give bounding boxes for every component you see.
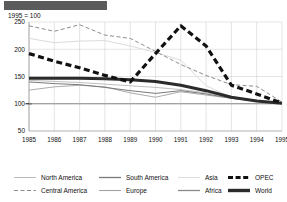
y-axis-tick-label: 200 — [14, 46, 25, 53]
legend-item-north-america[interactable]: North America — [14, 171, 82, 184]
x-axis-tick-label: 1985 — [22, 136, 37, 143]
legend-item-europe[interactable]: Europe — [99, 184, 147, 197]
x-axis-tick-label: 1992 — [199, 136, 214, 143]
legend-label: Asia — [205, 172, 218, 183]
line-swatch-icon — [99, 172, 121, 183]
legend-item-south-america[interactable]: South America — [99, 171, 168, 184]
x-axis-tick-label: 1993 — [224, 136, 239, 143]
legend-item-central-america[interactable]: Central America — [14, 184, 87, 197]
legend-row-top: North America South America Asia OPEC — [0, 171, 287, 184]
y-axis-tick-label: 150 — [14, 73, 25, 80]
bold-line-swatch-icon — [228, 185, 250, 196]
legend-row-bottom: Central America Europe Africa World — [0, 184, 287, 197]
legend-label: North America — [41, 172, 82, 183]
line-swatch-icon — [99, 185, 121, 196]
x-axis-tick-label: 1989 — [123, 136, 138, 143]
x-axis-tick-label: 1987 — [73, 136, 88, 143]
legend-label: Europe — [126, 185, 147, 196]
legend-label: World — [255, 185, 272, 196]
x-axis-tick-label: 1991 — [174, 136, 189, 143]
bold-dashed-line-swatch-icon — [228, 172, 250, 183]
line-swatch-icon — [14, 172, 36, 183]
legend-item-africa[interactable]: Africa — [178, 184, 222, 197]
line-chart: 5010015020025019851986198719881989199019… — [0, 18, 287, 153]
x-axis-tick-label: 1990 — [148, 136, 163, 143]
dashed-line-swatch-icon — [14, 185, 36, 196]
legend-label: South America — [126, 172, 168, 183]
legend-item-world[interactable]: World — [228, 184, 272, 197]
legend-item-opec[interactable]: OPEC — [228, 171, 273, 184]
line-swatch-icon — [178, 172, 200, 183]
x-axis-tick-label: 1986 — [47, 136, 62, 143]
legend-label: Central America — [41, 185, 87, 196]
chart-plot-area: 5010015020025019851986198719881989199019… — [0, 18, 287, 153]
chart-legend: North America South America Asia OPEC Ce… — [0, 171, 287, 202]
x-axis-tick-label: 1995 — [275, 136, 287, 143]
x-axis-tick-label: 1994 — [250, 136, 265, 143]
legend-label: Africa — [205, 185, 222, 196]
y-axis-tick-label: 250 — [14, 18, 25, 25]
y-axis-tick-label: 100 — [14, 100, 25, 107]
chart-page: 1995 = 100 50100150200250198519861987198… — [0, 0, 287, 202]
legend-item-asia[interactable]: Asia — [178, 171, 218, 184]
line-swatch-icon — [178, 185, 200, 196]
title-banner — [4, 1, 107, 10]
legend-label: OPEC — [255, 172, 273, 183]
y-axis-tick-label: 50 — [18, 127, 26, 134]
x-axis-tick-label: 1988 — [98, 136, 113, 143]
